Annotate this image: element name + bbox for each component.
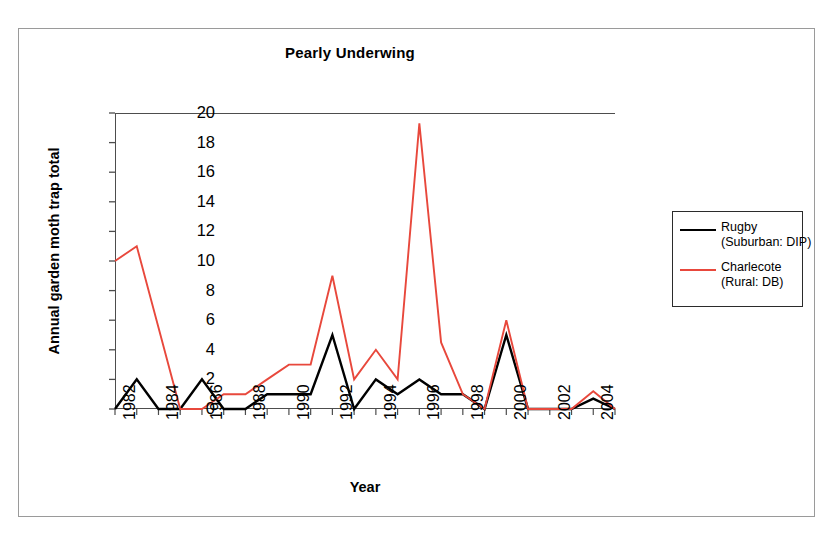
x-tick-label: 1994	[382, 384, 400, 420]
x-axis-title: Year	[115, 479, 615, 495]
legend-label-rugby-line2: (Suburban: DIP)	[721, 235, 811, 250]
legend-item-charlecote: Charlecote (Rural: DB)	[673, 261, 802, 301]
legend-item-rugby: Rugby (Suburban: DIP)	[673, 221, 802, 261]
x-tick-label: 1990	[295, 384, 313, 420]
legend-label-charlecote-line1: Charlecote	[721, 260, 784, 275]
chart-title: Pearly Underwing	[0, 44, 700, 61]
y-tick-label: 14	[125, 193, 215, 210]
chart-legend: Rugby (Suburban: DIP) Charlecote (Rural:…	[672, 211, 803, 307]
x-tick-label: 1984	[164, 384, 182, 420]
y-tick-label: 8	[125, 282, 215, 299]
y-axis-title: Annual garden moth trap total	[46, 101, 62, 401]
legend-swatch-charlecote	[680, 269, 716, 271]
x-tick-label: 2004	[599, 384, 617, 420]
legend-label-rugby-line1: Rugby	[721, 220, 811, 235]
legend-swatch-rugby	[680, 229, 716, 231]
y-tick-label: 4	[125, 341, 215, 358]
x-tick-label: 1998	[469, 384, 487, 420]
y-tick-label: 16	[125, 163, 215, 180]
x-tick-label: 1986	[208, 384, 226, 420]
legend-label-charlecote-line2: (Rural: DB)	[721, 275, 784, 290]
y-tick-label: 20	[125, 104, 215, 121]
chart-page: Pearly Underwing Annual garden moth trap…	[0, 0, 835, 542]
y-tick-label: 10	[125, 252, 215, 269]
legend-label-charlecote: Charlecote (Rural: DB)	[721, 260, 784, 290]
x-tick-label: 1992	[338, 384, 356, 420]
y-tick-label: 18	[125, 134, 215, 151]
y-tick-label: 6	[125, 311, 215, 328]
y-tick-label: 12	[125, 222, 215, 239]
x-tick-label: 2000	[512, 384, 530, 420]
x-tick-label: 1988	[251, 384, 269, 420]
legend-label-rugby: Rugby (Suburban: DIP)	[721, 220, 811, 250]
x-tick-label: 1982	[121, 384, 139, 420]
x-tick-label: 1996	[425, 384, 443, 420]
x-tick-label: 2002	[556, 384, 574, 420]
